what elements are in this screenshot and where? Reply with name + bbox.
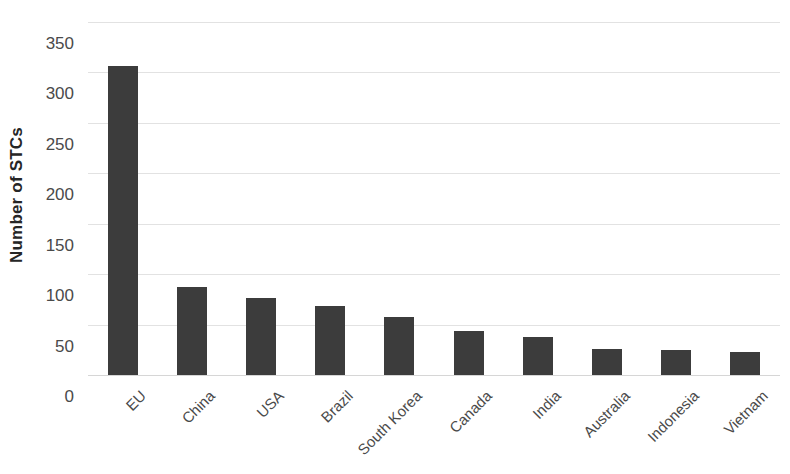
x-axis-tick-label: EU [122,387,149,414]
x-axis-tick-label: Australia [580,387,633,440]
bar [592,349,622,375]
x-axis-tick-label: India [529,387,564,422]
y-axis-tick-label: 100 [0,286,88,306]
y-axis-tick-labels: 050100150200250300350 [0,22,88,375]
gridline [88,224,780,225]
bar [177,287,207,375]
y-axis-tick-label: 50 [0,337,88,357]
y-axis-tick-label: 200 [0,185,88,205]
x-axis-tick-label: China [178,387,218,427]
y-axis-tick-label: 300 [0,84,88,104]
y-axis-tick-label: 250 [0,135,88,155]
bar [315,306,345,375]
bar [108,66,138,375]
x-axis-tick-label: Canada [445,387,494,436]
bar [384,317,414,375]
gridline [88,22,780,23]
y-axis-tick-label: 150 [0,236,88,256]
bar [730,352,760,375]
x-axis-tick-label: USA [253,387,287,421]
y-axis-tick-label: 350 [0,34,88,54]
x-axis-tick-label: Vietnam [721,387,772,438]
x-axis-tick-labels: EUChinaUSABrazilSouth KoreaCanadaIndiaAu… [88,375,780,474]
bar [661,350,691,375]
gridline [88,123,780,124]
plot-area [88,22,780,375]
x-axis-tick-label: Indonesia [644,387,702,445]
bar-chart: Number of STCs 050100150200250300350 EUC… [0,0,790,474]
gridline [88,173,780,174]
x-axis-tick-label: Brazil [318,387,357,426]
gridline [88,274,780,275]
gridline [88,72,780,73]
y-axis-tick-label: 0 [0,387,88,407]
bar [523,337,553,375]
bar [454,331,484,375]
bar [246,298,276,375]
x-axis-tick-label: South Korea [354,387,425,458]
